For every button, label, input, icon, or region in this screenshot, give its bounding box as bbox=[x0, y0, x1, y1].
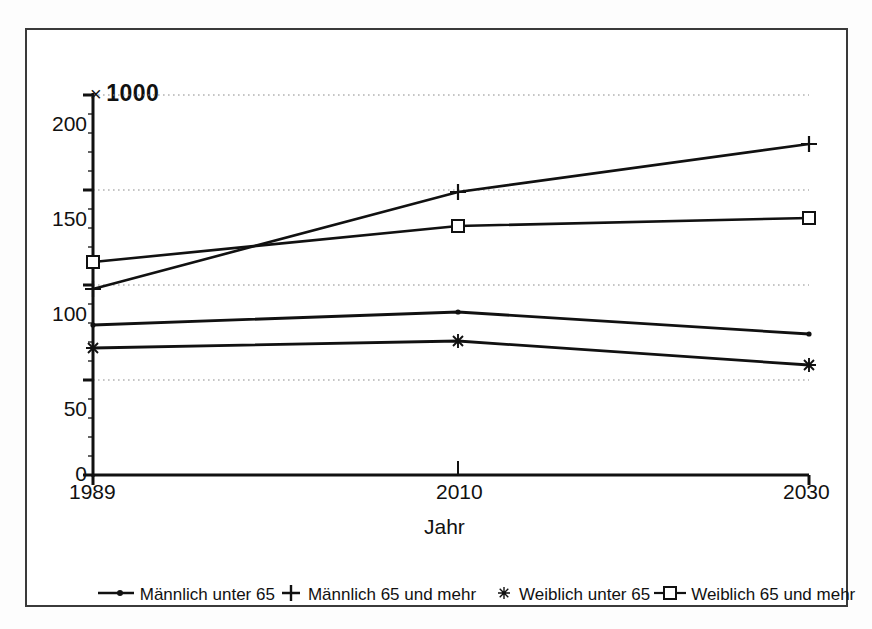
legend-label: Weiblich 65 und mehr bbox=[687, 585, 858, 605]
series-line-maennlich-65-und-mehr bbox=[85, 136, 817, 297]
star-marker-icon bbox=[493, 584, 515, 606]
data-point-marker bbox=[802, 358, 816, 372]
legend-item-maennlich-65-und-mehr[interactable]: Männlich 65 und mehr bbox=[278, 584, 479, 606]
legend-label: Männlich unter 65 bbox=[136, 585, 278, 605]
data-point-marker bbox=[801, 136, 817, 152]
data-point-marker bbox=[806, 331, 811, 336]
data-point-marker bbox=[452, 220, 464, 232]
gridlines bbox=[93, 95, 809, 380]
data-point-marker bbox=[451, 334, 465, 348]
x-axis bbox=[93, 461, 809, 485]
legend-label: Weiblich unter 65 bbox=[515, 585, 653, 605]
chart-plot-area bbox=[27, 30, 846, 605]
data-point-marker bbox=[803, 212, 815, 224]
data-point-marker bbox=[86, 341, 100, 355]
legend-item-maennlich-unter-65[interactable]: Männlich unter 65 bbox=[96, 585, 278, 605]
data-point-marker bbox=[90, 322, 95, 327]
chart-page: ×1000 200 150 100 50 0 1989 2010 2030 Ja… bbox=[0, 0, 872, 629]
plus-marker-icon bbox=[278, 584, 304, 606]
series-line-maennlich-unter-65 bbox=[90, 309, 811, 336]
legend-item-weiblich-65-und-mehr[interactable]: Weiblich 65 und mehr bbox=[653, 584, 858, 606]
line-dot-marker-icon bbox=[96, 585, 136, 605]
chart-legend: Männlich unter 65 Männlich 65 und mehr W… bbox=[107, 578, 847, 612]
series-line-weiblich-65-und-mehr bbox=[87, 212, 815, 268]
data-point-marker bbox=[450, 184, 466, 200]
legend-label: Männlich 65 und mehr bbox=[304, 585, 479, 605]
series-line-weiblich-unter-65 bbox=[86, 334, 816, 372]
data-point-marker bbox=[455, 309, 460, 314]
data-point-marker bbox=[87, 256, 99, 268]
legend-item-weiblich-unter-65[interactable]: Weiblich unter 65 bbox=[493, 584, 653, 606]
line-square-marker-icon bbox=[653, 584, 687, 606]
data-point-marker bbox=[85, 281, 101, 297]
chart-frame: ×1000 200 150 100 50 0 1989 2010 2030 Ja… bbox=[25, 28, 848, 607]
y-axis bbox=[83, 93, 93, 477]
